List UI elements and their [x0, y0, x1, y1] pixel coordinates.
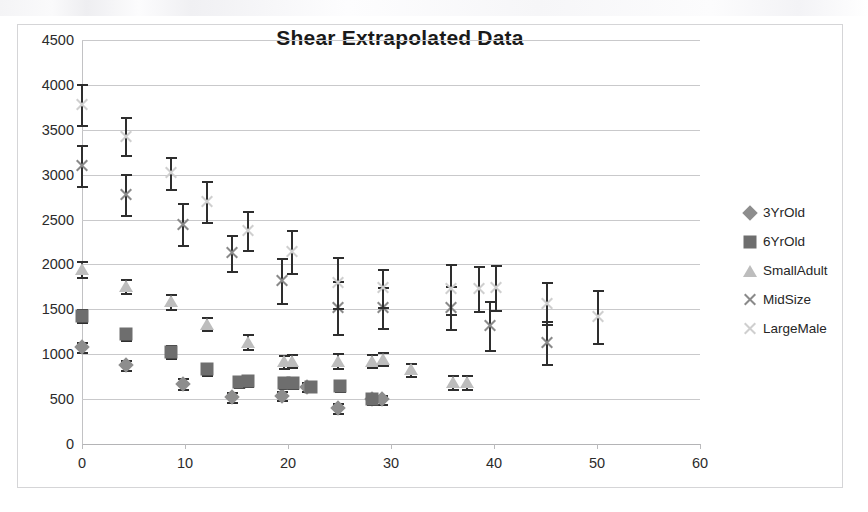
- error-bar-cap-lower: [593, 343, 604, 345]
- marker-x-light-icon: [443, 281, 458, 296]
- legend-item-6yrold[interactable]: 6YrOld: [742, 227, 852, 256]
- error-bar-cap-lower: [243, 250, 254, 252]
- legend-item-smalladult[interactable]: SmallAdult: [742, 256, 852, 285]
- error-bar-cap-lower: [243, 349, 254, 351]
- error-bar-cap-lower: [448, 389, 459, 391]
- marker-x-light-icon: [240, 223, 255, 238]
- error-bar-cap-lower: [77, 277, 88, 279]
- marker-triangle-icon: [119, 280, 133, 292]
- legend-item-3yrold[interactable]: 3YrOld: [742, 198, 852, 227]
- marker-x-light-icon: [75, 97, 90, 112]
- error-bar-cap-lower: [446, 329, 457, 331]
- error-bar-cap-lower: [287, 367, 298, 369]
- error-bar-cap-lower: [202, 330, 213, 332]
- error-bar-cap-lower: [485, 350, 496, 352]
- marker-triangle-icon: [446, 376, 460, 388]
- error-bar-cap-lower: [166, 358, 177, 360]
- error-bar-cap-upper: [378, 269, 389, 271]
- gridline-y-3500: [82, 130, 700, 131]
- marker-square-icon: [287, 376, 300, 389]
- x-tick-mark-20: [288, 444, 289, 449]
- error-bar-cap-lower: [367, 367, 378, 369]
- marker-triangle-icon: [75, 263, 89, 275]
- marker-x-light-icon: [285, 244, 300, 259]
- x-tick-mark-40: [494, 444, 495, 449]
- marker-square-icon: [241, 375, 254, 388]
- x-tick-label-30: 30: [361, 455, 421, 471]
- gridline-y-2000: [82, 264, 700, 265]
- error-bar-cap-lower: [333, 308, 344, 310]
- x-tick-mark-50: [597, 444, 598, 449]
- marker-x-icon: [743, 292, 758, 307]
- x-tick-mark-0: [82, 444, 83, 449]
- marker-x-light-icon: [471, 281, 486, 296]
- y-tick-label-4000: 4000: [14, 77, 74, 93]
- error-bar-cap-lower: [542, 364, 553, 366]
- marker-triangle-icon: [331, 355, 345, 367]
- error-bar-cap-lower: [166, 309, 177, 311]
- legend-item-label: SmallAdult: [763, 263, 828, 278]
- error-bar-cap-lower: [121, 293, 132, 295]
- marker-triangle-icon: [241, 336, 255, 348]
- error-bar-cap-upper: [491, 265, 502, 267]
- y-axis-tick-labels: 050010001500200025003000350040004500: [10, 0, 74, 512]
- error-bar-cap-lower: [178, 245, 189, 247]
- error-bar-cap-upper: [593, 290, 604, 292]
- chart-page: Shear Extrapolated Data 0500100015002000…: [0, 0, 868, 512]
- chart-legend: 3YrOld6YrOldSmallAdultMidSizeLargeMale: [742, 198, 852, 343]
- error-bar-cap-lower: [462, 389, 473, 391]
- error-bar-cap-upper: [446, 264, 457, 266]
- error-bar-cap-upper: [287, 230, 298, 232]
- marker-square-icon: [304, 380, 317, 393]
- marker-x-icon: [482, 318, 497, 333]
- error-bar-cap-lower: [378, 328, 389, 330]
- y-tick-label-4500: 4500: [14, 32, 74, 48]
- marker-x-icon: [539, 335, 554, 350]
- y-tick-label-1000: 1000: [14, 346, 74, 362]
- legend-item-largemale[interactable]: LargeMale: [742, 314, 852, 343]
- error-bar-cap-upper: [178, 203, 189, 205]
- error-bar-cap-lower: [227, 271, 238, 273]
- error-bar-cap-lower: [121, 215, 132, 217]
- marker-triangle-icon: [164, 295, 178, 307]
- error-bar-cap-lower: [491, 310, 502, 312]
- x-tick-label-10: 10: [155, 455, 215, 471]
- marker-square-icon: [744, 235, 757, 248]
- x-tick-mark-60: [700, 444, 701, 449]
- marker-square-icon: [76, 309, 89, 322]
- error-bar-cap-lower: [277, 303, 288, 305]
- error-bar-cap-lower: [77, 322, 88, 324]
- marker-triangle-icon: [376, 353, 390, 365]
- x-tick-label-50: 50: [567, 455, 627, 471]
- error-bar-cap-lower: [406, 376, 417, 378]
- marker-x-light-icon: [591, 309, 606, 324]
- scan-artifact: [0, 0, 868, 16]
- error-bar-cap-lower: [77, 186, 88, 188]
- marker-triangle-icon: [200, 318, 214, 330]
- error-bar-cap-upper: [166, 157, 177, 159]
- marker-diamond-icon: [742, 205, 758, 221]
- marker-x-light-icon: [743, 321, 758, 336]
- marker-x-icon: [119, 187, 134, 202]
- error-bar-cap-lower: [121, 155, 132, 157]
- error-bar-cap-upper: [202, 181, 213, 183]
- error-bar-cap-upper: [542, 282, 553, 284]
- legend-item-label: MidSize: [763, 292, 811, 307]
- gridline-y-4500: [82, 40, 700, 41]
- legend-swatch: [742, 263, 758, 279]
- error-bar-cap-upper: [227, 235, 238, 237]
- marker-x-light-icon: [119, 129, 134, 144]
- marker-x-light-icon: [331, 275, 346, 290]
- x-tick-mark-30: [391, 444, 392, 449]
- x-tick-label-20: 20: [258, 455, 318, 471]
- plot-area: [82, 40, 700, 444]
- y-tick-label-1500: 1500: [14, 301, 74, 317]
- x-tick-label-40: 40: [464, 455, 524, 471]
- marker-triangle-icon: [743, 265, 757, 277]
- y-tick-label-500: 500: [14, 391, 74, 407]
- marker-x-icon: [75, 158, 90, 173]
- error-bar-cap-lower: [202, 222, 213, 224]
- marker-triangle-icon: [404, 363, 418, 375]
- x-tick-label-0: 0: [52, 455, 112, 471]
- legend-item-midsize[interactable]: MidSize: [742, 285, 852, 314]
